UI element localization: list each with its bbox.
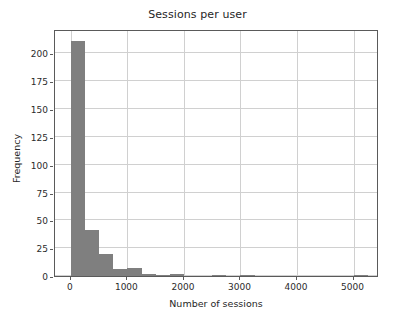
y-tick-mark — [50, 249, 53, 250]
gridline-vertical — [184, 31, 185, 276]
gridline-horizontal — [55, 247, 377, 248]
y-tick-label: 0 — [8, 272, 48, 282]
x-tick-label: 1000 — [101, 282, 151, 292]
gridline-horizontal — [55, 80, 377, 81]
x-tick-mark — [239, 277, 240, 280]
gridline-vertical — [127, 31, 128, 276]
gridline-horizontal — [55, 219, 377, 220]
gridline-horizontal — [55, 108, 377, 109]
gridline-horizontal — [55, 136, 377, 137]
x-tick-label: 4000 — [271, 282, 321, 292]
histogram-bar — [170, 274, 184, 276]
plot-area — [54, 30, 378, 277]
x-tick-label: 5000 — [328, 282, 378, 292]
histogram-bar — [354, 275, 368, 276]
y-tick-label: 25 — [8, 244, 48, 254]
x-axis-label: Number of sessions — [54, 298, 378, 309]
histogram-bar — [240, 275, 254, 276]
gridline-vertical — [297, 31, 298, 276]
x-tick-mark — [126, 277, 127, 280]
x-tick-mark — [183, 277, 184, 280]
chart-figure: Sessions per user 0255075100125150175200… — [0, 0, 395, 321]
x-tick-mark — [353, 277, 354, 280]
y-tick-mark — [50, 54, 53, 55]
histogram-bar — [156, 275, 170, 276]
y-axis-label: Frequency — [11, 109, 22, 209]
histogram-bar — [127, 268, 141, 276]
gridline-horizontal — [55, 164, 377, 165]
histogram-bar — [212, 275, 226, 276]
histogram-bar — [99, 254, 113, 276]
histogram-bar — [113, 269, 127, 276]
y-tick-label: 200 — [8, 49, 48, 59]
gridline-horizontal — [55, 52, 377, 53]
y-tick-mark — [50, 277, 53, 278]
histogram-bar — [142, 274, 156, 276]
histogram-bar — [85, 230, 99, 276]
histogram-bar — [71, 41, 85, 276]
y-tick-label: 175 — [8, 77, 48, 87]
x-tick-mark — [70, 277, 71, 280]
y-tick-mark — [50, 221, 53, 222]
y-tick-label: 50 — [8, 216, 48, 226]
y-tick-mark — [50, 82, 53, 83]
gridline-vertical — [354, 31, 355, 276]
x-tick-label: 0 — [45, 282, 95, 292]
gridline-horizontal — [55, 192, 377, 193]
x-tick-mark — [296, 277, 297, 280]
y-tick-mark — [50, 110, 53, 111]
x-tick-label: 2000 — [158, 282, 208, 292]
x-tick-label: 3000 — [214, 282, 264, 292]
y-tick-mark — [50, 166, 53, 167]
y-tick-mark — [50, 138, 53, 139]
y-tick-mark — [50, 194, 53, 195]
gridline-vertical — [240, 31, 241, 276]
chart-title: Sessions per user — [0, 8, 395, 21]
